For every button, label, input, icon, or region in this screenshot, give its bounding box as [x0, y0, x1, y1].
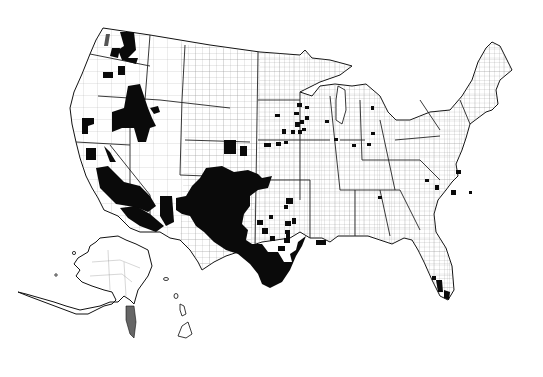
hawaii-inset: [164, 278, 193, 339]
eastern-counties: [250, 40, 520, 310]
us-county-map: [0, 0, 543, 377]
alaska-inset: [18, 236, 152, 338]
